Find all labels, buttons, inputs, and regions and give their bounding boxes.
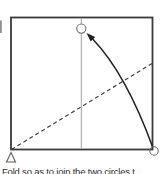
fold-arrow-shaft [93,39,153,147]
diagram-canvas [0,0,164,174]
origami-fold-diagram: Fold so as to join the two circles t [0,0,164,174]
corner-marker-triangle-icon [7,153,16,163]
source-circle-bottom-right [150,147,158,155]
cropped-step-label-fragment [0,21,2,34]
figure-caption: Fold so as to join the two circles t [2,166,135,174]
target-circle-top [77,24,86,33]
